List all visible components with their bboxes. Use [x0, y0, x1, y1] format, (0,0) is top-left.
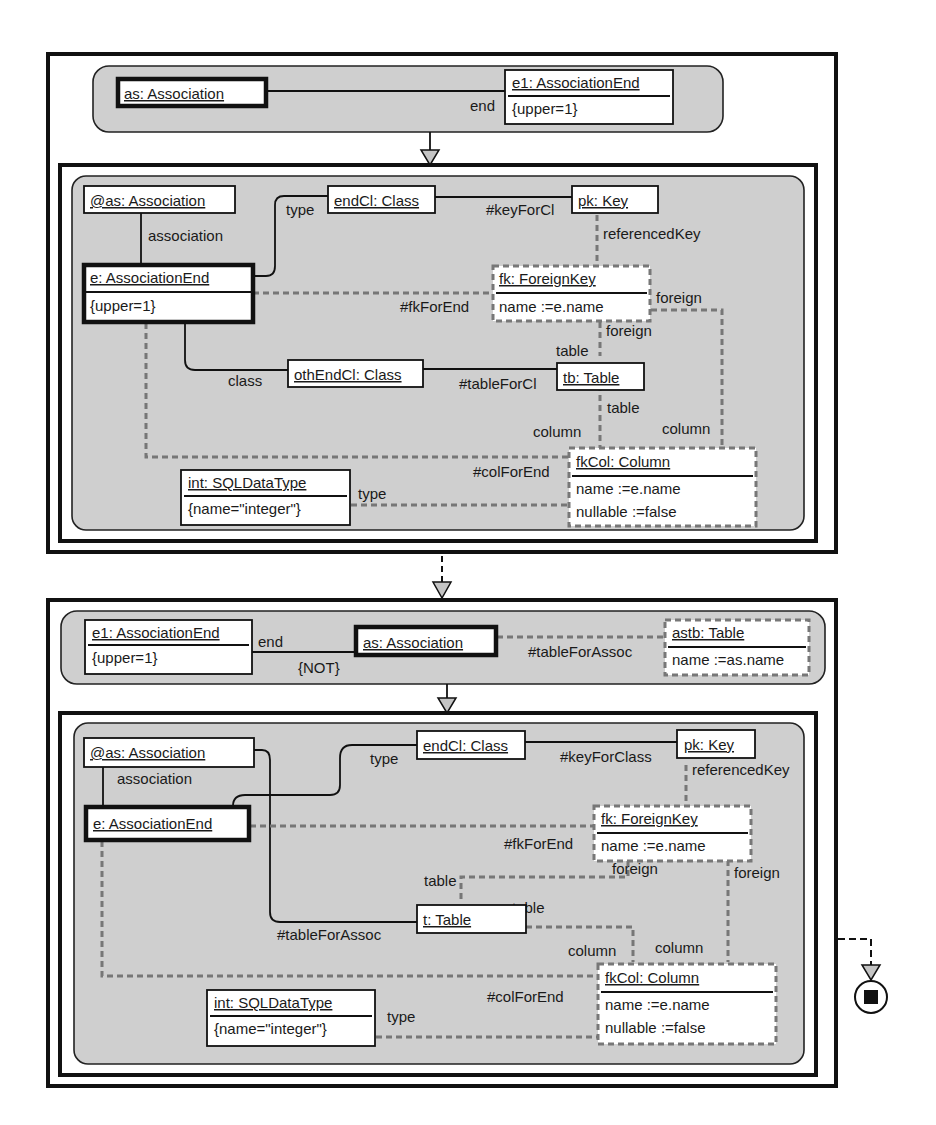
node-fkcol-attr: name :=e.name [576, 480, 681, 497]
node-fkcol-attr: nullable :=false [605, 1019, 706, 1036]
edge-label-column: column [655, 939, 703, 956]
node-as-association-label: as: Association [124, 85, 224, 102]
edge-label-table: table [424, 872, 457, 889]
node-at-as-label: @as: Association [90, 192, 205, 209]
node-pk-label: pk: Key [578, 192, 629, 209]
node-e-label: e: AssociationEnd [90, 269, 209, 286]
edge-label-end: end [470, 97, 495, 114]
edge-label-colforend: #colForEnd [473, 463, 550, 480]
node-fkcol-label: fkCol: Column [576, 453, 670, 470]
edge-label-type: type [286, 201, 314, 218]
edge-label-column: column [662, 420, 710, 437]
node-int-attr: {name="integer"} [214, 1020, 327, 1037]
node-e1-label: e1: AssociationEnd [512, 74, 640, 91]
node-fkcol-label: fkCol: Column [605, 969, 699, 986]
node-fk-attr: name :=e.name [601, 837, 706, 854]
node-endcl-label: endCl: Class [334, 192, 419, 209]
node-int-attr: {name="integer"} [188, 500, 301, 517]
arrow-down-icon [433, 582, 451, 598]
edge-label-keyforclass: #keyForClass [560, 748, 652, 765]
edge-label-tableforassoc: #tableForAssoc [277, 926, 382, 943]
edge-label-referencedkey: referencedKey [692, 761, 790, 778]
node-astb-label: astb: Table [672, 624, 744, 641]
node-fkcol-attr: nullable :=false [576, 503, 677, 520]
rule-1: as: Association end e1: AssociationEnd {… [48, 54, 836, 552]
node-int-label: int: SQLDataType [214, 994, 332, 1011]
edge-label-association: association [117, 770, 192, 787]
edge-label-table: table [556, 342, 589, 359]
node-fkcol-attr: name :=e.name [605, 996, 710, 1013]
edge-label-tableforcl: #tableForCl [459, 375, 537, 392]
node-fk-attr: name :=e.name [499, 298, 604, 315]
arrow-down-icon [862, 965, 880, 980]
edge-label-type: type [358, 485, 386, 502]
node-at-as-label: @as: Association [90, 744, 205, 761]
edge-label-fkforend: #fkForEnd [504, 835, 573, 852]
edge-label-foreign: foreign [656, 289, 702, 306]
edge-label-colforend: #colForEnd [487, 988, 564, 1005]
node-tb-label: tb: Table [563, 369, 619, 386]
edge-label-foreign: foreign [734, 864, 780, 881]
edge-label-association: association [148, 227, 223, 244]
node-int-label: int: SQLDataType [188, 474, 306, 491]
edge-label-not: {NOT} [298, 659, 340, 676]
node-e-attr: {upper=1} [90, 297, 156, 314]
node-pk-label: pk: Key [684, 736, 735, 753]
node-fk-label: fk: ForeignKey [499, 270, 596, 287]
edge-label-foreign: foreign [612, 860, 658, 877]
node-fk-label: fk: ForeignKey [601, 810, 698, 827]
node-t-label: t: Table [423, 911, 471, 928]
edge-label-foreign: foreign [606, 322, 652, 339]
node-e1-label: e1: AssociationEnd [92, 624, 220, 641]
node-e1-attr: {upper=1} [92, 649, 158, 666]
final-state-icon [855, 981, 887, 1013]
edge-label-referencedkey: referencedKey [603, 225, 701, 242]
node-e1-attr: {upper=1} [512, 100, 578, 117]
node-e-label: e: AssociationEnd [93, 815, 212, 832]
edge-label-tableforassoc: #tableForAssoc [528, 643, 633, 660]
edge-label-end: end [258, 633, 283, 650]
edge-label-column: column [533, 423, 581, 440]
edge-label-table: table [607, 399, 640, 416]
node-astb-attr: name :=as.name [672, 651, 784, 668]
node-endcl-label: endCl: Class [423, 737, 508, 754]
node-othendcl-label: othEndCl: Class [294, 366, 402, 383]
node-as-association-label: as: Association [363, 634, 463, 651]
edge-label-type: type [370, 750, 398, 767]
edge-label-fkforend: #fkForEnd [400, 298, 469, 315]
edge-label-class: class [228, 372, 262, 389]
rule-2: e1: AssociationEnd {upper=1} end {NOT} a… [48, 600, 836, 1086]
edge-label-column: column [568, 942, 616, 959]
edge-label-type: type [387, 1008, 415, 1025]
edge-label-keyforcl: #keyForCl [486, 201, 554, 218]
